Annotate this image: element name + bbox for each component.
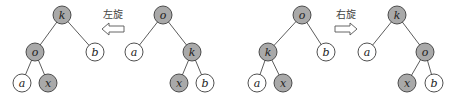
node-tree3-b: b: [317, 43, 335, 61]
node-tree3-x: x: [274, 74, 292, 92]
node-tree4-b: b: [425, 74, 443, 92]
node-tree3-k: k: [259, 43, 277, 61]
node-label: o: [160, 9, 167, 22]
rotate-right-label: 右旋: [336, 8, 356, 20]
node-tree1-k: k: [53, 6, 71, 24]
rotate-right-arrow: 右旋: [335, 8, 357, 35]
node-tree3-a: a: [248, 74, 266, 92]
rotation-diagram: kobaxoakxbokbaxkaoxb 左旋右旋: [0, 0, 458, 102]
node-tree1-o: o: [26, 43, 44, 61]
node-tree1-a: a: [13, 74, 31, 92]
node-tree4-o: o: [416, 43, 434, 61]
node-label: o: [32, 46, 39, 59]
rotate-left-label: 左旋: [103, 8, 123, 20]
node-tree2-o: o: [154, 6, 172, 24]
node-label: a: [364, 46, 371, 59]
node-label: k: [189, 46, 196, 59]
node-label: x: [45, 77, 52, 90]
arrows-layer: 左旋右旋: [102, 8, 357, 35]
nodes-layer: kobaxoakxbokbaxkaoxb: [13, 6, 443, 92]
node-label: k: [394, 9, 401, 22]
node-label: b: [91, 46, 98, 59]
node-tree1-b: b: [86, 43, 104, 61]
node-tree1-x: x: [39, 74, 57, 92]
node-tree2-k: k: [183, 43, 201, 61]
node-label: b: [201, 77, 208, 90]
node-label: x: [280, 77, 287, 90]
node-label: o: [422, 46, 429, 59]
node-tree2-b: b: [196, 74, 214, 92]
arrow-left-icon: [102, 23, 124, 35]
node-tree4-k: k: [388, 6, 406, 24]
arrow-right-icon: [335, 23, 357, 35]
node-tree2-a: a: [125, 43, 143, 61]
node-tree2-x: x: [170, 74, 188, 92]
node-label: a: [254, 77, 261, 90]
node-tree4-a: a: [358, 43, 376, 61]
rotate-left-arrow: 左旋: [102, 8, 124, 35]
node-label: b: [322, 46, 329, 59]
node-label: a: [19, 77, 26, 90]
node-label: x: [404, 77, 411, 90]
node-label: k: [59, 9, 66, 22]
node-label: k: [265, 46, 272, 59]
node-label: b: [430, 77, 437, 90]
node-label: o: [299, 9, 306, 22]
node-label: x: [176, 77, 183, 90]
node-label: a: [131, 46, 138, 59]
node-tree3-o: o: [293, 6, 311, 24]
node-tree4-x: x: [398, 74, 416, 92]
